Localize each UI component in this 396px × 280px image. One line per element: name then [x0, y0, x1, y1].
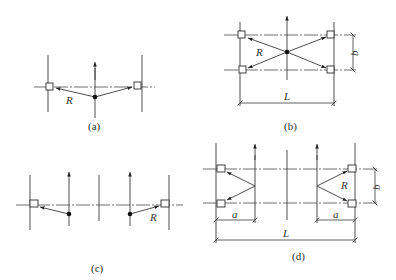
support-box-left	[30, 200, 38, 207]
radius-arrow	[248, 38, 287, 52]
width-label: b	[370, 184, 382, 190]
radius-arrow	[287, 37, 326, 52]
radius-arrow-left	[40, 207, 69, 214]
panel-d: R b a a L (d)	[203, 143, 382, 263]
support-box-top-left	[238, 31, 245, 38]
radius-arrow	[227, 186, 255, 200]
span-label: L	[282, 227, 289, 239]
panel-a: R (a)	[34, 55, 155, 133]
panel-b: R b L (b)	[224, 16, 360, 133]
radius-arrow-left	[56, 88, 95, 97]
radius-label: R	[340, 179, 348, 191]
caption-b: (b)	[284, 120, 297, 133]
support-box-top-right	[348, 165, 356, 172]
radius-label: R	[255, 46, 263, 58]
radius-label: R	[65, 94, 73, 106]
pivot-dot	[93, 95, 98, 100]
pivot-dot	[285, 50, 290, 55]
support-box-left	[46, 83, 53, 90]
width-label: b	[348, 50, 360, 56]
support-box-top-left	[217, 165, 225, 172]
radius-arrow-right	[95, 87, 132, 97]
offset-label-right: a	[333, 208, 339, 220]
offset-label-left: a	[232, 208, 238, 220]
support-box-right	[161, 200, 169, 207]
span-label: L	[283, 90, 290, 102]
caption-a: (a)	[88, 120, 101, 133]
radius-arrow	[227, 172, 255, 186]
radius-label: R	[149, 211, 157, 223]
radius-arrow	[287, 52, 326, 68]
support-box-right	[134, 82, 141, 89]
caption-d: (d)	[292, 250, 305, 263]
support-box-bottom-right	[348, 200, 356, 207]
radius-arrow	[248, 52, 287, 68]
pivot-dot-left	[67, 212, 72, 217]
panel-c: R (c)	[16, 172, 183, 275]
caption-c: (c)	[91, 262, 104, 275]
support-box-bottom-left	[217, 200, 225, 207]
pivot-dot-right	[128, 212, 133, 217]
support-box-bottom-right	[327, 66, 334, 73]
support-box-top-right	[327, 31, 334, 38]
support-box-bottom-left	[239, 66, 246, 73]
figure-canvas: R (a) R b L (b)	[0, 0, 396, 280]
